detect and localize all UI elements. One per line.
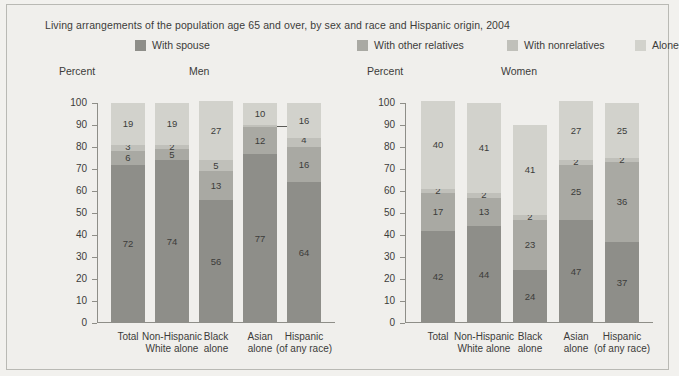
bar-segment[interactable] (243, 125, 277, 127)
bar-segment[interactable]: 23 (513, 220, 547, 271)
bar-segment[interactable]: 5 (199, 160, 233, 171)
x-category-label: Hispanic(of any race) (582, 331, 662, 354)
bar-segment[interactable]: 27 (199, 101, 233, 160)
bar-segment[interactable]: 2 (467, 193, 501, 197)
y-tick-80 (400, 147, 405, 148)
bar-men-3[interactable]: 771210 (243, 103, 277, 323)
y-tick-70 (92, 169, 97, 170)
bar-segment[interactable]: 64 (287, 182, 321, 323)
bar-value-label: 47 (571, 267, 582, 277)
bar-value-label: 6 (125, 153, 130, 163)
y-tick-label: 80 (369, 141, 395, 152)
legend-label: With other relatives (374, 39, 464, 51)
y-tick-label: 100 (61, 97, 87, 108)
bar-segment[interactable]: 3 (111, 145, 145, 152)
bar-segment[interactable]: 40 (421, 101, 455, 189)
panel-men: Percent Men 0102030405060708090100726319… (51, 65, 341, 365)
bar-segment[interactable]: 2 (421, 189, 455, 193)
bar-segment[interactable]: 56 (199, 200, 233, 323)
x-category-label-line: (of any race) (264, 343, 344, 355)
bar-segment[interactable]: 16 (287, 147, 321, 182)
bar-segment[interactable]: 16 (287, 103, 321, 138)
y-tick-0 (92, 323, 97, 324)
bar-men-4[interactable]: 6416416 (287, 103, 321, 323)
bar-men-1[interactable]: 745219 (155, 103, 189, 323)
bar-value-label: 27 (571, 126, 582, 136)
bar-segment[interactable]: 4 (287, 138, 321, 147)
bar-value-label: 19 (123, 119, 134, 129)
y-tick-label: 60 (369, 185, 395, 196)
panel-title-women: Women (501, 65, 537, 77)
bar-segment[interactable]: 2 (155, 145, 189, 149)
y-tick-10 (92, 301, 97, 302)
bar-segment[interactable]: 24 (513, 270, 547, 323)
bar-segment[interactable]: 25 (559, 165, 593, 220)
y-tick-label: 20 (369, 273, 395, 284)
legend-swatch-icon (635, 40, 646, 51)
bar-segment[interactable]: 42 (421, 231, 455, 323)
bar-women-0[interactable]: 4217240 (421, 103, 455, 323)
bar-value-label: 24 (525, 292, 536, 302)
bar-women-2[interactable]: 2423241 (513, 103, 547, 323)
bar-women-1[interactable]: 4413241 (467, 103, 501, 323)
bar-segment[interactable]: 2 (605, 158, 639, 162)
bar-segment[interactable]: 44 (467, 226, 501, 323)
bar-value-label: 27 (211, 126, 222, 136)
bar-segment[interactable]: 37 (605, 242, 639, 323)
bar-segment[interactable]: 27 (559, 101, 593, 160)
legend-item-2[interactable]: With nonrelatives (507, 39, 605, 51)
y-tick-label: 60 (61, 185, 87, 196)
y-tick-label: 100 (369, 97, 395, 108)
bar-segment[interactable]: 17 (421, 193, 455, 230)
bar-value-label: 77 (255, 234, 266, 244)
bar-value-label: 42 (433, 272, 444, 282)
bar-segment[interactable]: 47 (559, 220, 593, 323)
bar-value-label: 17 (433, 207, 444, 217)
bar-segment[interactable]: 13 (467, 198, 501, 227)
bar-segment[interactable]: 12 (243, 127, 277, 153)
bar-segment[interactable]: 2 (513, 215, 547, 219)
legend-label: Alone (652, 39, 679, 51)
y-tick-90 (92, 125, 97, 126)
bar-segment[interactable]: 74 (155, 160, 189, 323)
bar-segment[interactable]: 36 (605, 162, 639, 241)
legend-item-3[interactable]: Alone (635, 39, 679, 51)
bar-segment[interactable]: 41 (513, 125, 547, 215)
legend-item-1[interactable]: With other relatives (357, 39, 464, 51)
bar-segment[interactable]: 25 (605, 103, 639, 158)
y-tick-20 (92, 279, 97, 280)
bar-segment[interactable]: 13 (199, 171, 233, 200)
bar-value-label: 12 (255, 136, 266, 146)
y-tick-label: 0 (369, 317, 395, 328)
bar-value-label: 56 (211, 257, 222, 267)
bar-segment[interactable]: 41 (467, 103, 501, 193)
x-category-label-line: Hispanic (264, 331, 344, 343)
bar-women-3[interactable]: 4725227 (559, 103, 593, 323)
bar-segment[interactable]: 6 (111, 151, 145, 164)
y-tick-label: 80 (61, 141, 87, 152)
bar-men-0[interactable]: 726319 (111, 103, 145, 323)
y-tick-90 (400, 125, 405, 126)
bar-segment[interactable]: 19 (155, 103, 189, 145)
bar-men-2[interactable]: 5613527 (199, 103, 233, 323)
bar-segment[interactable]: 2 (559, 160, 593, 164)
bar-value-label: 13 (211, 181, 222, 191)
y-tick-label: 30 (369, 251, 395, 262)
y-tick-50 (92, 213, 97, 214)
y-tick-10 (400, 301, 405, 302)
y-tick-label: 40 (369, 229, 395, 240)
legend-item-0[interactable]: With spouse (135, 39, 210, 51)
bar-segment[interactable]: 19 (111, 103, 145, 145)
bar-value-label: 44 (479, 270, 490, 280)
bar-value-label: 40 (433, 140, 444, 150)
panel-title-men: Men (189, 65, 209, 77)
bar-segment[interactable]: 10 (243, 103, 277, 125)
bar-segment[interactable]: 77 (243, 154, 277, 323)
bar-women-4[interactable]: 3736225 (605, 103, 639, 323)
bar-value-label: 74 (167, 237, 178, 247)
x-category-label-line: Hispanic (582, 331, 662, 343)
y-tick-label: 20 (61, 273, 87, 284)
chart-frame: Living arrangements of the population ag… (6, 4, 669, 370)
y-tick-label: 70 (369, 163, 395, 174)
bar-segment[interactable]: 72 (111, 165, 145, 323)
